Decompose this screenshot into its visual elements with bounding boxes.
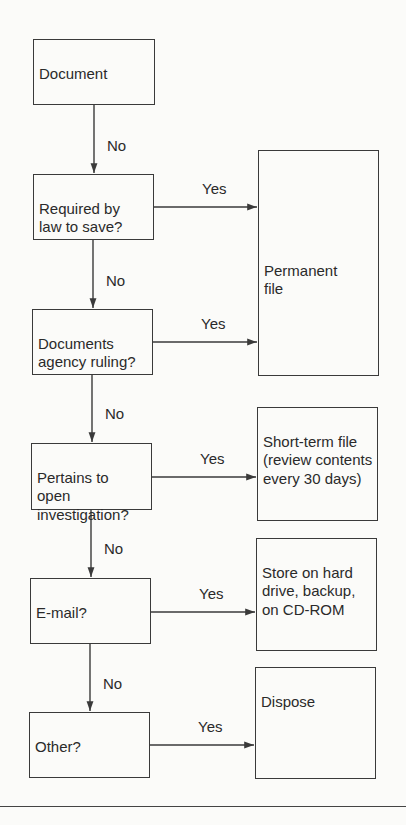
edge-label-yes-3: Yes bbox=[200, 450, 224, 468]
decision-email-label: E-mail? bbox=[36, 604, 87, 621]
outcome-permanent-file-label: Permanent file bbox=[264, 262, 337, 298]
edge-label-yes-2: Yes bbox=[201, 315, 225, 333]
outcome-store-digital: Store on hard drive, backup, on CD-ROM bbox=[256, 538, 377, 651]
decision-required-by-law-label: Required by law to save? bbox=[39, 200, 122, 236]
edge-label-yes-1: Yes bbox=[202, 180, 226, 198]
outcome-store-digital-label: Store on hard drive, backup, on CD-ROM bbox=[262, 564, 355, 618]
decision-agency-ruling-label: Documents agency ruling? bbox=[38, 335, 136, 371]
decision-open-investigation: Pertains to open investigation? bbox=[31, 443, 152, 510]
edge-label-no-5: No bbox=[103, 675, 122, 693]
flowchart-canvas: Document Required by law to save? Docume… bbox=[0, 0, 406, 825]
outcome-dispose: Dispose bbox=[255, 667, 376, 779]
outcome-permanent-file: Permanent file bbox=[258, 150, 379, 376]
outcome-short-term-file: Short-term file (review contents every 3… bbox=[257, 407, 378, 521]
decision-document-label: Document bbox=[39, 65, 107, 82]
edge-label-no-3: No bbox=[105, 405, 124, 423]
edge-label-no-1: No bbox=[107, 137, 126, 155]
decision-agency-ruling: Documents agency ruling? bbox=[32, 309, 153, 375]
edge-label-no-2: No bbox=[106, 272, 125, 290]
edge-label-yes-5: Yes bbox=[198, 718, 222, 736]
decision-email: E-mail? bbox=[30, 578, 151, 644]
decision-other-label: Other? bbox=[35, 738, 81, 755]
decision-open-investigation-label: Pertains to open investigation? bbox=[37, 469, 129, 523]
outcome-dispose-label: Dispose bbox=[261, 693, 315, 710]
decision-required-by-law: Required by law to save? bbox=[33, 174, 154, 240]
edge-label-no-4: No bbox=[104, 540, 123, 558]
outcome-short-term-file-label: Short-term file (review contents every 3… bbox=[263, 433, 372, 487]
decision-document: Document bbox=[33, 39, 155, 105]
edge-label-yes-4: Yes bbox=[199, 585, 223, 603]
bottom-rule-divider bbox=[0, 806, 406, 807]
decision-other: Other? bbox=[29, 712, 150, 778]
